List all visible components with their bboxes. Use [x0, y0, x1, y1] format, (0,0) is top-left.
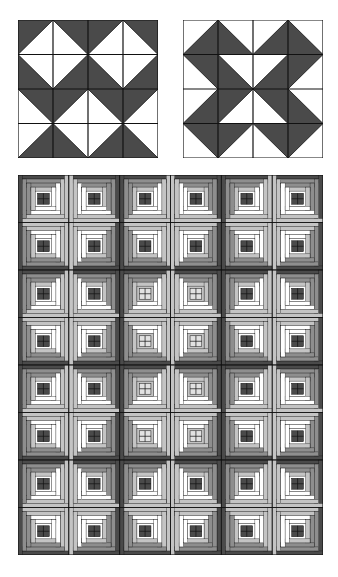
log-cabin-block — [272, 508, 323, 556]
log-cabin-block — [171, 223, 222, 271]
log-cabin-quilt — [18, 175, 323, 555]
log-cabin-block — [69, 270, 120, 318]
log-cabin-block — [221, 318, 272, 366]
triangle-block-b — [183, 20, 323, 158]
log-cabin-block — [18, 270, 69, 318]
log-cabin-block — [272, 413, 323, 461]
log-cabin-block — [221, 365, 272, 413]
log-cabin-block — [120, 318, 171, 366]
log-cabin-block — [221, 270, 272, 318]
log-cabin-block — [221, 413, 272, 461]
log-cabin-block — [171, 508, 222, 556]
log-cabin-block — [18, 365, 69, 413]
log-cabin-block — [272, 318, 323, 366]
log-cabin-block — [69, 413, 120, 461]
log-cabin-block — [120, 365, 171, 413]
log-cabin-block — [272, 175, 323, 223]
log-cabin-block — [69, 223, 120, 271]
log-cabin-block — [18, 508, 69, 556]
log-cabin-block — [120, 460, 171, 508]
log-cabin-block — [18, 460, 69, 508]
log-cabin-block — [221, 508, 272, 556]
log-cabin-block — [272, 270, 323, 318]
log-cabin-block — [221, 175, 272, 223]
log-cabin-block — [69, 318, 120, 366]
log-cabin-block — [18, 318, 69, 366]
log-cabin-block — [120, 508, 171, 556]
log-cabin-block — [171, 460, 222, 508]
log-cabin-block — [69, 365, 120, 413]
log-cabin-block — [18, 223, 69, 271]
log-cabin-block — [171, 413, 222, 461]
log-cabin-block — [272, 223, 323, 271]
log-cabin-block — [171, 365, 222, 413]
log-cabin-block — [221, 460, 272, 508]
log-cabin-block — [69, 508, 120, 556]
log-cabin-block — [171, 318, 222, 366]
log-cabin-block — [120, 223, 171, 271]
log-cabin-block — [69, 460, 120, 508]
log-cabin-block — [272, 460, 323, 508]
log-cabin-block — [69, 175, 120, 223]
triangle-block-a-graphic — [18, 20, 158, 158]
log-cabin-block — [221, 223, 272, 271]
log-cabin-block — [18, 413, 69, 461]
log-cabin-block — [120, 270, 171, 318]
log-cabin-quilt-graphic — [18, 175, 323, 555]
log-cabin-block — [171, 175, 222, 223]
log-cabin-block — [272, 365, 323, 413]
triangle-block-b-graphic — [183, 20, 323, 158]
triangle-block-a — [18, 20, 158, 158]
log-cabin-block — [18, 175, 69, 223]
log-cabin-block — [171, 270, 222, 318]
log-cabin-block — [120, 413, 171, 461]
log-cabin-block — [120, 175, 171, 223]
